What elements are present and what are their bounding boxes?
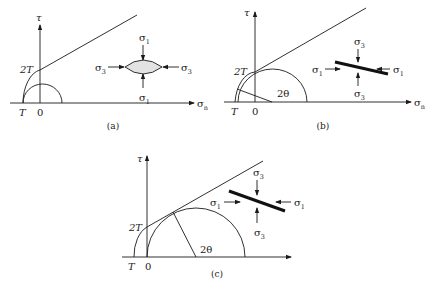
sigma-n-axis-label: σn: [197, 98, 208, 112]
panel-caption: (a): [107, 121, 119, 131]
stress-label-sigma3: σ3: [95, 62, 106, 76]
failure-envelope-line: [40, 15, 137, 70]
sigma-subscript: n: [421, 103, 425, 111]
tau-axis-label: τ: [137, 153, 143, 164]
stress-label-sigma3-subscript: 3: [102, 68, 106, 76]
mohr-circle: [23, 84, 62, 103]
stress-label-sigma3-subscript: 3: [261, 233, 265, 241]
stress-label-sigma1-subscript: 1: [319, 70, 323, 78]
stress-label-sigma1: σ1: [139, 32, 150, 46]
stress-label-sigma3: σ3: [254, 227, 265, 241]
origin-label: 0: [145, 261, 151, 272]
stress-label-sigma3-subscript: 3: [361, 42, 365, 50]
panel-b: τσnT02T2θσ3σ3σ1σ1(b): [224, 7, 425, 131]
tensile-strength-label: T: [231, 106, 239, 117]
cohesion-2T-label: 2T: [128, 222, 143, 233]
cohesion-2T-label: 2T: [19, 64, 34, 75]
panel-a: τσnT02Tσ1σ1σ3σ3(a): [10, 12, 208, 131]
stress-label-sigma3: σ3: [354, 36, 365, 50]
sigma-subscript: n: [204, 104, 208, 112]
stress-label-sigma3: σ3: [181, 62, 192, 76]
stress-label-sigma1-subscript: 1: [146, 38, 150, 46]
stress-label-sigma3-subscript: 3: [260, 173, 264, 181]
tensile-strength-label: T: [19, 107, 27, 118]
origin-label: 0: [252, 106, 258, 117]
stress-label-sigma1: σ1: [210, 197, 221, 211]
crack-element-lens: [125, 60, 162, 74]
stress-label-sigma1-subscript: 1: [146, 98, 150, 106]
mohr-circle-figure: τσnT02Tσ1σ1σ3σ3(a)τσnT02T2θσ3σ3σ1σ1(b)τT…: [0, 0, 433, 289]
tensile-strength-label: T: [128, 261, 136, 272]
panel-c: τT02T2θσ3σ3σ1σ1(c): [122, 153, 305, 279]
tau-axis-label: τ: [36, 12, 42, 23]
tau-axis-label: τ: [244, 7, 250, 18]
stress-label-sigma1-subscript: 1: [217, 203, 221, 211]
panel-caption: (c): [211, 269, 223, 279]
mohr-circle: [147, 208, 245, 257]
stress-label-sigma1: σ1: [139, 92, 150, 106]
stress-label-sigma1: σ1: [294, 197, 305, 211]
sigma-n-axis-label: σn: [414, 97, 425, 111]
stress-label-sigma1-subscript: 1: [301, 203, 305, 211]
stress-label-sigma1-subscript: 1: [400, 70, 404, 78]
mohr-radius-line: [237, 89, 272, 102]
panel-caption: (b): [317, 121, 330, 131]
stress-label-sigma1: σ1: [312, 64, 323, 78]
origin-label: 0: [37, 107, 43, 118]
stress-label-sigma3-subscript: 3: [188, 68, 192, 76]
angle-2theta-label: 2θ: [200, 244, 212, 255]
mohr-radius-line: [173, 212, 196, 257]
stress-label-sigma3-subscript: 3: [361, 94, 365, 102]
crack-element-bar: [335, 62, 388, 74]
angle-2theta-label: 2θ: [277, 88, 289, 99]
stress-label-sigma1: σ1: [393, 64, 404, 78]
stress-label-sigma3: σ3: [253, 167, 264, 181]
failure-envelope-line: [147, 161, 263, 227]
failure-envelope-line: [255, 8, 366, 72]
stress-label-sigma3: σ3: [354, 88, 365, 102]
